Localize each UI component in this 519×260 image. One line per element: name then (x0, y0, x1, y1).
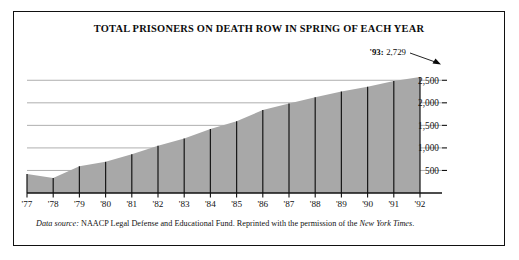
source-note: Data source: NAACP Legal Defense and Edu… (36, 219, 414, 228)
x-tick-label: '86 (257, 199, 268, 209)
plot-area: '77'78'79'80'81'82'83'84'85'86'87'88'89'… (14, 12, 506, 247)
death-row-area-chart: '77'78'79'80'81'82'83'84'85'86'87'88'89'… (14, 12, 506, 247)
annotation-value: 2,729 (386, 47, 406, 57)
x-tick-label: '87 (284, 199, 295, 209)
x-tick-label: '79 (74, 199, 85, 209)
area-fill (27, 77, 420, 193)
x-tick-label: '78 (48, 199, 59, 209)
source-body: NAACP Legal Defense and Educational Fund… (81, 219, 357, 228)
x-tick-label: '88 (310, 199, 321, 209)
x-tick-label: '82 (153, 199, 164, 209)
x-tick-label: '84 (205, 199, 216, 209)
source-period: . (412, 219, 414, 228)
y-axis: 5001,0001,5002,0002,500 (418, 76, 447, 176)
y-tick-label: 2,000 (418, 98, 439, 108)
x-tick-label: '91 (388, 199, 399, 209)
annotation-arrow-head (433, 59, 442, 65)
x-tick-label: '90 (362, 199, 373, 209)
y-tick-label: 1,000 (418, 143, 439, 153)
x-tick-label: '83 (179, 199, 190, 209)
annotation-text: '93:2,729 (370, 47, 407, 57)
source-prefix: Data source: (36, 219, 79, 228)
annotation-year: '93: (370, 47, 384, 57)
x-tick-label: '77 (22, 199, 33, 209)
y-tick-label: 1,500 (418, 121, 439, 131)
x-tick-label: '81 (126, 199, 137, 209)
y-tick-label: 2,500 (418, 76, 439, 86)
figure-frame: TOTAL PRISONERS ON DEATH ROW IN SPRING O… (13, 11, 505, 246)
x-axis: '77'78'79'80'81'82'83'84'85'86'87'88'89'… (22, 193, 426, 209)
source-publication: New York Times (359, 219, 412, 228)
x-tick-label: '80 (100, 199, 111, 209)
x-tick-label: '89 (336, 199, 347, 209)
x-tick-label: '85 (231, 199, 242, 209)
x-tick-label: '92 (415, 199, 426, 209)
annotation-1993: '93:2,729 (370, 47, 441, 65)
y-tick-label: 500 (425, 166, 439, 176)
